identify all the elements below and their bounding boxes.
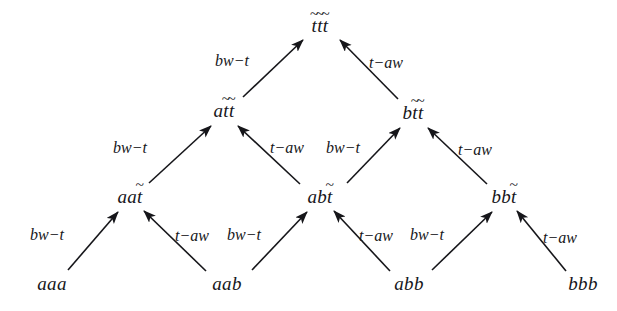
node-btt: bt~t~: [403, 103, 424, 122]
edge-label-att-to-ttt: bw−t: [215, 53, 249, 69]
node-bbb: bbb: [568, 274, 597, 293]
node-bbt: bbt~: [491, 187, 516, 206]
tilde-accent-icon: ~: [416, 93, 425, 109]
edge-label-bbt-to-btt: t−aw: [458, 142, 492, 158]
edge-label-bbb-to-bbt: t−aw: [543, 230, 577, 246]
node-char-base: a: [37, 273, 47, 294]
node-char-base: a: [212, 273, 222, 294]
node-char: b: [232, 274, 242, 293]
node-aaa: aaa: [37, 274, 66, 293]
node-char-base: b: [414, 273, 424, 294]
node-char: a: [117, 187, 127, 206]
node-char-base: a: [117, 186, 127, 207]
edge-label-aab-to-aat: t−aw: [175, 228, 209, 244]
node-char-base: b: [491, 186, 501, 207]
edge-label-btt-to-ttt: t−aw: [369, 55, 403, 71]
node-char-base: b: [232, 273, 242, 294]
node-aab: aab: [212, 274, 241, 293]
edge-label-aaa-to-aat: bw−t: [30, 227, 64, 243]
edge-arrow-aaa-to-aat: [68, 212, 118, 270]
node-char-base: a: [222, 273, 232, 294]
edge-label-abt-to-att: t−aw: [270, 140, 304, 156]
node-char: a: [222, 274, 232, 293]
node-char: t~: [323, 16, 329, 35]
tilde-accent-icon: ~: [135, 177, 144, 193]
node-char: t~: [137, 187, 143, 206]
node-char: b: [404, 274, 414, 293]
tilde-accent-icon: ~: [321, 6, 330, 22]
node-char: b: [414, 274, 424, 293]
edge-arrow-att-to-ttt: [243, 40, 303, 97]
edge-label-aab-to-abt: bw−t: [227, 227, 261, 243]
edge-label-abb-to-abt: t−aw: [359, 228, 393, 244]
node-char: t~: [229, 101, 235, 120]
node-char-base: a: [307, 186, 317, 207]
node-char: a: [307, 187, 317, 206]
edge-label-abb-to-bbt: bw−t: [410, 227, 444, 243]
node-char: a: [47, 274, 57, 293]
node-char: a: [394, 274, 404, 293]
node-char: a: [212, 274, 222, 293]
node-ttt: t~t~t~: [312, 16, 329, 35]
tilde-accent-icon: ~: [227, 91, 236, 107]
node-char-base: a: [57, 273, 67, 294]
node-char-base: a: [394, 273, 404, 294]
node-char: b: [578, 274, 588, 293]
node-aat: aat~: [117, 187, 142, 206]
node-char: b: [588, 274, 598, 293]
diagram-canvas: aaaaababbbbbaat~abt~bbt~at~t~bt~t~t~t~t~…: [0, 0, 617, 311]
node-char: a: [57, 274, 67, 293]
node-char-base: b: [578, 273, 588, 294]
edge-arrow-aat-to-att: [149, 126, 211, 183]
node-char: t~: [511, 187, 517, 206]
node-char: t~: [327, 187, 333, 206]
node-abb: abb: [394, 274, 423, 293]
tilde-accent-icon: ~: [325, 177, 334, 193]
node-att: at~t~: [214, 101, 235, 120]
node-char: a: [37, 274, 47, 293]
node-char-base: b: [588, 273, 598, 294]
node-char-base: a: [47, 273, 57, 294]
node-char: t~: [418, 103, 424, 122]
node-char-base: b: [404, 273, 414, 294]
node-abt: abt~: [307, 187, 332, 206]
edge-label-abt-to-btt: bw−t: [326, 140, 360, 156]
edge-label-aat-to-att: bw−t: [113, 140, 147, 156]
tilde-accent-icon: ~: [509, 177, 518, 193]
node-char: b: [568, 274, 578, 293]
edge-layer: [0, 0, 617, 311]
node-char: b: [491, 187, 501, 206]
node-char-base: b: [568, 273, 578, 294]
